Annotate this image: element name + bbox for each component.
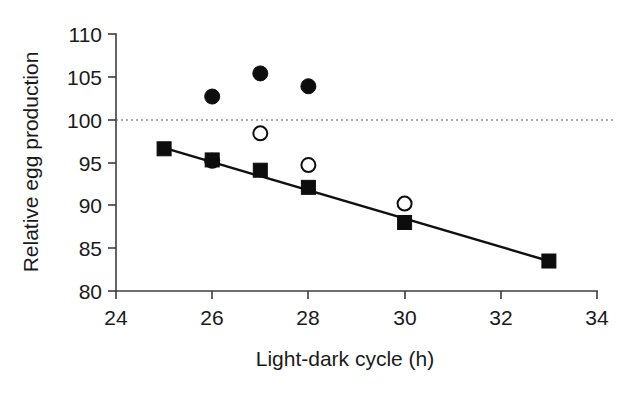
data-point-filled-square bbox=[301, 180, 315, 194]
data-point-open-circle bbox=[398, 197, 412, 211]
series-filled-circle-series bbox=[205, 66, 316, 104]
y-tick-label-85: 85 bbox=[79, 237, 102, 260]
x-tick-label-26: 26 bbox=[200, 306, 223, 329]
data-point-filled-square bbox=[157, 142, 171, 156]
data-point-filled-circle bbox=[301, 79, 316, 94]
y-axis-ticks bbox=[108, 34, 116, 291]
x-axis-title: Light-dark cycle (h) bbox=[256, 347, 435, 370]
x-tick-label-30: 30 bbox=[393, 306, 416, 329]
data-point-filled-square bbox=[205, 153, 219, 167]
data-point-filled-circle bbox=[253, 66, 268, 81]
y-tick-label-95: 95 bbox=[79, 152, 102, 175]
y-tick-labels: 110 105 100 95 90 85 80 bbox=[67, 23, 102, 303]
data-point-filled-square bbox=[398, 215, 412, 229]
x-tick-label-24: 24 bbox=[104, 306, 128, 329]
x-tick-label-34: 34 bbox=[585, 306, 609, 329]
x-tick-labels: 24 26 28 30 32 34 bbox=[104, 306, 609, 329]
y-tick-label-100: 100 bbox=[67, 109, 102, 132]
y-tick-label-90: 90 bbox=[79, 194, 102, 217]
data-point-filled-square bbox=[253, 163, 267, 177]
y-tick-label-80: 80 bbox=[79, 280, 102, 303]
x-tick-label-28: 28 bbox=[296, 306, 319, 329]
data-point-open-circle bbox=[301, 158, 315, 172]
y-axis-title: Relative egg production bbox=[19, 52, 42, 273]
data-point-open-circle bbox=[253, 126, 267, 140]
x-axis-ticks bbox=[116, 291, 597, 299]
chart-figure: 110 105 100 95 90 85 80 24 26 28 30 32 3… bbox=[0, 0, 621, 397]
scatter-plot: 110 105 100 95 90 85 80 24 26 28 30 32 3… bbox=[0, 0, 621, 397]
y-tick-label-110: 110 bbox=[69, 23, 102, 46]
x-tick-label-32: 32 bbox=[489, 306, 512, 329]
trend-line bbox=[164, 148, 549, 261]
axes bbox=[116, 34, 597, 291]
y-tick-label-105: 105 bbox=[67, 66, 102, 89]
data-series-layer bbox=[157, 66, 556, 268]
data-point-filled-circle bbox=[205, 89, 220, 104]
data-point-filled-square bbox=[542, 254, 556, 268]
